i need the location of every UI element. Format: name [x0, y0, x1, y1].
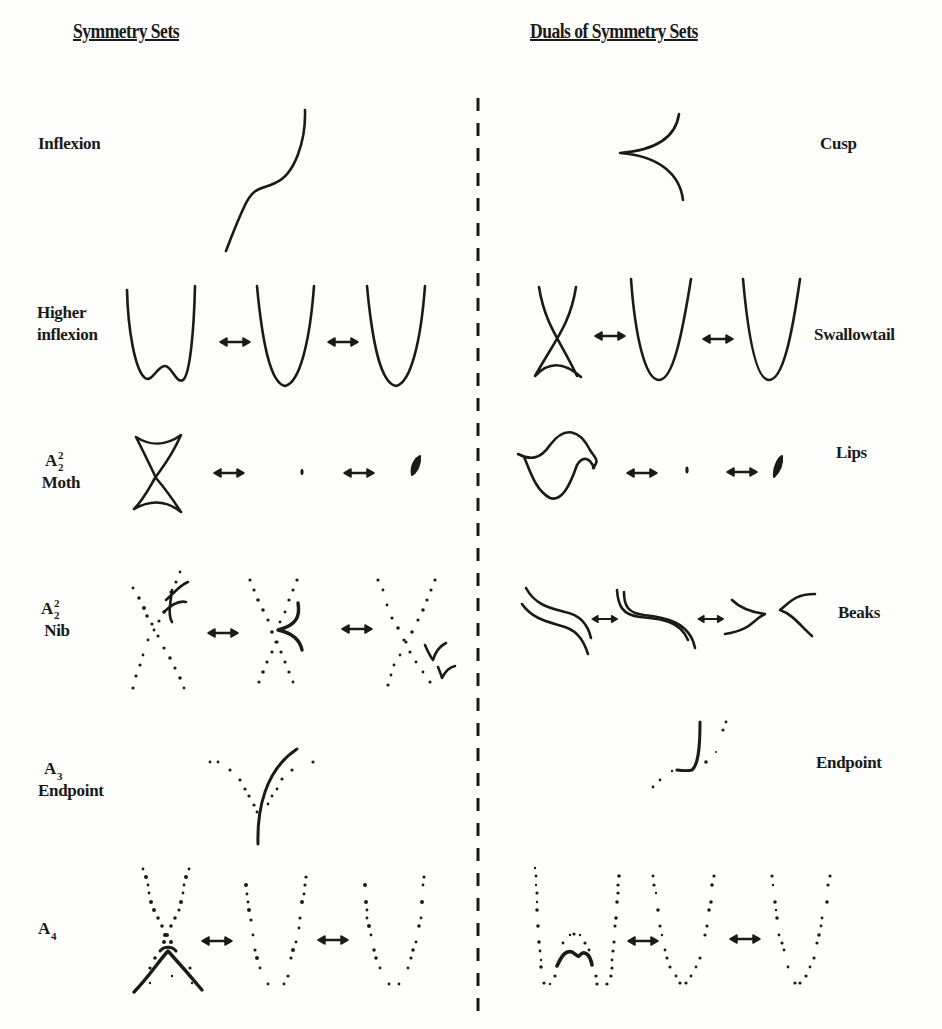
u-curve-3 [631, 279, 691, 380]
transition-arrow [727, 468, 757, 476]
nib-group [131, 571, 455, 690]
beaks-shape-3 [725, 600, 765, 634]
a4-group [134, 868, 426, 992]
transition-arrow [208, 629, 238, 637]
dotted-x-a4 [142, 868, 194, 985]
nib-shape-3 [425, 643, 455, 678]
nib-shape-1 [164, 582, 188, 622]
beaks-shape-4 [780, 594, 815, 636]
moth-blob [412, 456, 421, 475]
dual-endpoint-dots [652, 721, 728, 789]
lips-point [685, 467, 688, 474]
a4-caret [134, 951, 202, 992]
a4-dual-m-shape [557, 952, 592, 966]
swallowtail-shape [535, 287, 581, 377]
transition-arrow [220, 338, 250, 346]
dotted-x-2 [248, 578, 298, 683]
inflexion-curve [226, 110, 305, 251]
endpoint-curve-left [258, 749, 297, 844]
nib-shape-2 [278, 603, 302, 650]
cusp-shape [620, 114, 683, 200]
transition-arrow [703, 335, 733, 343]
beaks-shape-1b [522, 604, 588, 654]
dual-endpoint-group [652, 721, 728, 789]
transition-arrow [628, 937, 658, 945]
beaks-group [522, 588, 815, 654]
lips-shape [518, 432, 596, 498]
transition-arrow [730, 935, 760, 943]
dotted-u-a4-2 [363, 875, 426, 985]
u-curve-2 [367, 286, 425, 386]
transition-arrow [214, 469, 244, 477]
moth-point [300, 469, 303, 475]
moth-shape [134, 435, 181, 512]
lips-blob [774, 456, 782, 477]
u-curve-4 [743, 279, 800, 380]
transition-arrow [342, 625, 372, 633]
u-curve-1 [257, 286, 314, 386]
dual-endpoint-curve [677, 722, 700, 771]
dotted-u-a4-1 [244, 875, 308, 985]
lips-group [518, 432, 782, 498]
transition-arrow [592, 616, 618, 623]
transition-arrow [627, 469, 657, 477]
diagram-canvas [0, 0, 942, 1029]
transition-arrow [595, 332, 625, 340]
dotted-w-dual [534, 867, 621, 986]
swallowtail-group [535, 279, 800, 380]
dotted-u-dual-2 [770, 874, 831, 984]
transition-arrow [698, 616, 724, 623]
beaks-shape-1a [526, 588, 591, 638]
a3-endpoint-group [209, 749, 315, 844]
transition-arrow [344, 469, 374, 477]
transition-arrow [318, 936, 348, 944]
higher-inflexion-group [127, 286, 425, 386]
dotted-x-3 [376, 578, 436, 686]
a4-dual-group [534, 867, 832, 986]
moth-group [134, 435, 420, 512]
dotted-u-dual-1 [652, 874, 716, 984]
w-curve [127, 286, 195, 381]
transition-arrow [328, 338, 358, 346]
transition-arrow [202, 937, 232, 945]
